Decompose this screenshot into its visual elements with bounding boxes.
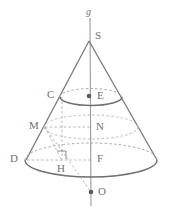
label-apex-S: S — [95, 30, 101, 41]
label-point-C: C — [47, 89, 54, 100]
cone-left-slant — [26, 41, 89, 160]
label-point-F: F — [97, 153, 103, 164]
label-axis-g: g — [86, 7, 91, 17]
axis-line-g — [90, 18, 91, 206]
point-marker-E — [87, 94, 92, 99]
segment-M-O — [45, 127, 91, 192]
cone-diagram-svg — [0, 0, 174, 210]
label-point-M: M — [29, 120, 39, 131]
geometry-figure: g S C E M N D H F O — [0, 0, 174, 210]
label-point-O: O — [98, 186, 106, 197]
point-marker-O — [89, 190, 94, 195]
label-point-H: H — [57, 163, 65, 174]
segment-M-H — [45, 127, 62, 161]
label-point-E: E — [97, 90, 104, 101]
label-point-N: N — [96, 121, 104, 132]
label-point-D: D — [10, 153, 18, 164]
